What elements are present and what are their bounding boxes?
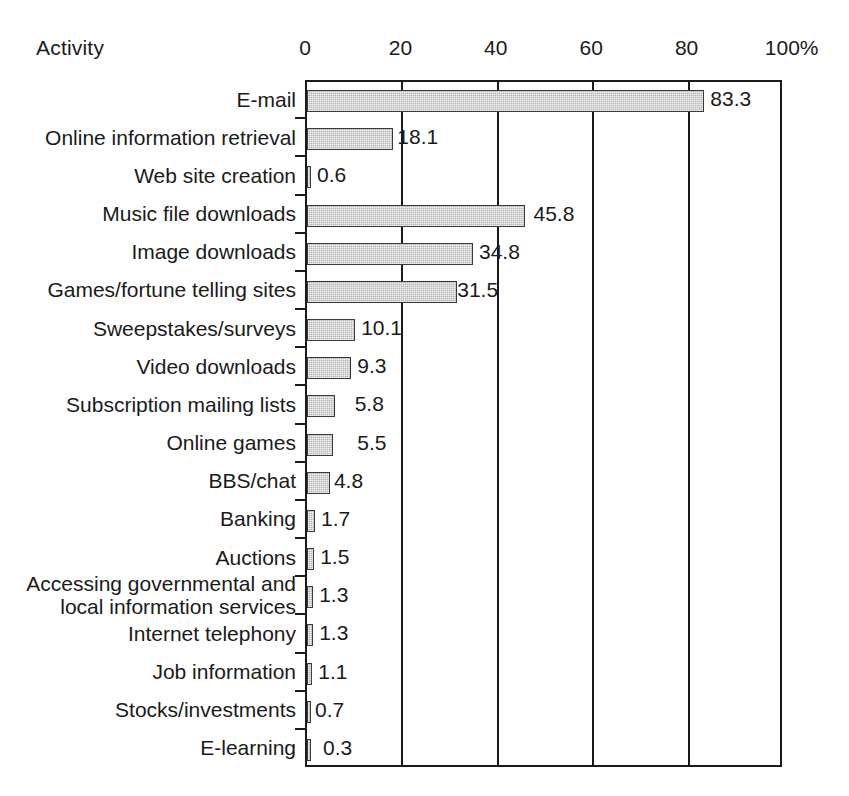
plot-area [305, 80, 782, 767]
bar-value-label: 5.8 [355, 392, 384, 416]
category-label: Stocks/investments [0, 698, 296, 721]
category-label: Online information retrieval [0, 126, 296, 149]
category-label: Image downloads [0, 240, 296, 263]
bar-row [307, 464, 780, 502]
category-label: Sweepstakes/surveys [0, 317, 296, 340]
y-tick-mark [295, 499, 305, 501]
y-tick-mark [295, 117, 305, 119]
bar [307, 243, 473, 265]
category-label: Auctions [0, 546, 296, 569]
category-label: Games/fortune telling sites [0, 278, 296, 301]
y-tick-mark [295, 194, 305, 196]
bar-row [307, 540, 780, 578]
bar [307, 586, 313, 608]
category-label: Video downloads [0, 355, 296, 378]
bar [307, 357, 351, 379]
bar [307, 663, 312, 685]
bar-row [307, 502, 780, 540]
bar [307, 739, 311, 761]
category-label: Online games [0, 431, 296, 454]
category-label: E-learning [0, 736, 296, 759]
x-tick-label-80: 80 [675, 36, 698, 60]
bar-row [307, 693, 780, 731]
bar-value-label: 0.7 [315, 698, 344, 722]
bar-value-label: 45.8 [533, 202, 574, 226]
bar-row [307, 235, 780, 273]
category-label: Subscription mailing lists [0, 393, 296, 416]
bar-row [307, 578, 780, 616]
bar-value-label: 0.3 [323, 736, 352, 760]
y-tick-mark [295, 613, 305, 615]
category-label-line: local information services [0, 595, 296, 618]
x-tick-label-20: 20 [389, 36, 412, 60]
bar-row [307, 655, 780, 693]
bar-value-label: 10.1 [361, 316, 402, 340]
category-label: E-mail [0, 88, 296, 111]
y-tick-mark [295, 232, 305, 234]
bar-row [307, 120, 780, 158]
bar-value-label: 34.8 [479, 240, 520, 264]
x-tick-label-0: 0 [299, 36, 311, 60]
bar [307, 395, 335, 417]
bar-chart: Activity 020406080100% E-mailOnline info… [0, 0, 849, 796]
y-tick-mark [295, 346, 305, 348]
category-label: Music file downloads [0, 202, 296, 225]
y-tick-mark [295, 384, 305, 386]
y-tick-mark [295, 155, 305, 157]
bar [307, 624, 313, 646]
y-tick-mark [295, 575, 305, 577]
bar [307, 128, 393, 150]
y-tick-mark [295, 461, 305, 463]
bar-row [307, 82, 780, 120]
bar-value-label: 1.5 [320, 545, 349, 569]
bar [307, 548, 314, 570]
bar-value-label: 0.6 [317, 163, 346, 187]
bar-value-label: 5.5 [357, 431, 386, 455]
bar-value-label: 9.3 [357, 354, 386, 378]
bar-value-label: 1.7 [321, 507, 350, 531]
bar [307, 434, 333, 456]
bar [307, 472, 330, 494]
bar [307, 510, 315, 532]
category-label: Internet telephony [0, 622, 296, 645]
category-label: BBS/chat [0, 469, 296, 492]
bar [307, 281, 457, 303]
bar-row [307, 616, 780, 654]
bar-value-label: 18.1 [397, 125, 438, 149]
y-tick-mark [295, 270, 305, 272]
bar-value-label: 1.3 [319, 583, 348, 607]
bar-value-label: 83.3 [710, 87, 751, 111]
bar-value-label: 4.8 [334, 469, 363, 493]
bar [307, 701, 311, 723]
category-label: Banking [0, 507, 296, 530]
y-tick-mark [295, 652, 305, 654]
x-tick-label-100: 100% [765, 36, 819, 60]
bar-value-label: 1.3 [319, 621, 348, 645]
x-tick-label-60: 60 [580, 36, 603, 60]
y-tick-mark [295, 728, 305, 730]
category-label: Accessing governmental andlocal informat… [0, 572, 296, 618]
bar-value-label: 31.5 [457, 278, 498, 302]
y-tick-mark [295, 537, 305, 539]
y-tick-mark [295, 690, 305, 692]
bar-row [307, 731, 780, 769]
bar [307, 90, 704, 112]
bar [307, 166, 311, 188]
bar [307, 319, 355, 341]
bar [307, 205, 525, 227]
bar-value-label: 1.1 [318, 660, 347, 684]
bar-row [307, 273, 780, 311]
category-label: Web site creation [0, 164, 296, 187]
axis-title: Activity [36, 36, 104, 60]
category-label: Job information [0, 660, 296, 683]
category-label-line: Accessing governmental and [0, 572, 296, 595]
y-tick-mark [295, 423, 305, 425]
x-tick-label-40: 40 [484, 36, 507, 60]
y-tick-mark [295, 308, 305, 310]
bar-row [307, 158, 780, 196]
